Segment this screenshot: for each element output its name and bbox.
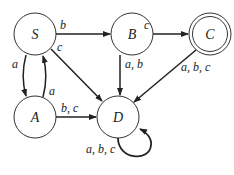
transition-S-B: b <box>56 18 110 34</box>
svg-text:a: a <box>49 84 55 98</box>
svg-text:C: C <box>205 27 215 42</box>
transition-C-D: a, b, c <box>134 50 211 102</box>
svg-text:D: D <box>112 110 123 125</box>
svg-text:b: b <box>60 18 66 32</box>
svg-text:c: c <box>144 18 150 32</box>
transition-A-S: a <box>43 56 55 98</box>
svg-text:b, c: b, c <box>61 101 79 115</box>
transition-S-D: c <box>51 40 102 101</box>
transition-S-A: a <box>12 55 26 96</box>
svg-text:c: c <box>57 40 63 54</box>
state-S: S <box>14 13 56 55</box>
svg-text:S: S <box>32 27 39 42</box>
state-A: A <box>14 96 56 138</box>
state-D: D <box>97 96 139 138</box>
transition-B-C: c <box>144 18 188 34</box>
transition-A-D: b, c <box>56 101 96 117</box>
svg-text:a, b, c: a, b, c <box>86 142 116 156</box>
svg-text:a, b: a, b <box>125 57 143 71</box>
state-C-accepting: C <box>189 13 231 55</box>
transition-B-D: a, b <box>120 55 143 95</box>
svg-text:a, b, c: a, b, c <box>181 60 211 74</box>
svg-text:A: A <box>30 110 40 125</box>
svg-text:a: a <box>12 57 18 71</box>
svg-text:B: B <box>128 27 137 42</box>
automaton-diagram: S B C A D b c a a c a, b a <box>0 0 234 175</box>
transition-D-D-loop: a, b, c <box>86 129 151 156</box>
